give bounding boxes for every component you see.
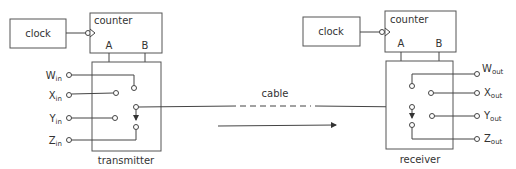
clock-block-right: clock bbox=[303, 17, 360, 46]
receiver-label: receiver bbox=[400, 154, 442, 165]
counter-output-a: A bbox=[106, 40, 113, 51]
counter-label: counter bbox=[390, 14, 429, 25]
svg-text:Yin: Yin bbox=[49, 113, 63, 126]
svg-text:Zout: Zout bbox=[484, 133, 503, 146]
cable-link: cable bbox=[139, 88, 410, 126]
counter-output-b: B bbox=[142, 40, 149, 51]
svg-text:Wout: Wout bbox=[482, 63, 504, 76]
receiver-side: clock counter A B receiver Wout bbox=[303, 11, 504, 165]
clock-label: clock bbox=[25, 28, 51, 39]
svg-text:Xin: Xin bbox=[49, 90, 62, 103]
direction-arrow-icon bbox=[218, 125, 336, 126]
switch-common-node bbox=[410, 105, 415, 110]
svg-text:Yout: Yout bbox=[483, 110, 502, 123]
counter-block-left: counter A B bbox=[90, 13, 162, 53]
counter-label: counter bbox=[94, 15, 133, 26]
transmitter-label: transmitter bbox=[98, 155, 155, 166]
switch-common-node bbox=[134, 105, 139, 110]
clock-inverter-bubble-icon bbox=[380, 30, 385, 35]
counter-output-a: A bbox=[398, 38, 405, 49]
counter-output-b: B bbox=[436, 38, 443, 49]
multiplexer-diagram: clock counter A B transmitter Win Xin bbox=[0, 0, 516, 169]
counter-block-right: counter A B bbox=[385, 11, 456, 52]
svg-text:Win: Win bbox=[46, 70, 62, 83]
transmitter-side: clock counter A B transmitter Win Xin bbox=[10, 13, 162, 166]
clock-label: clock bbox=[318, 26, 344, 37]
svg-text:Xout: Xout bbox=[484, 87, 503, 100]
clock-block-left: clock bbox=[10, 19, 66, 48]
svg-text:Zin: Zin bbox=[49, 135, 62, 148]
cable-label: cable bbox=[262, 88, 289, 99]
